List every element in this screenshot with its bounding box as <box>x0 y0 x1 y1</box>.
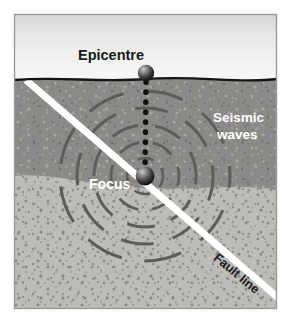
earthquake-diagram: Epicentre Seismic waves Focus Fault line <box>0 0 291 323</box>
focus-sphere <box>136 167 155 186</box>
label-seismic-waves-line2: waves <box>216 127 258 142</box>
lower-layer-speckle <box>14 175 277 309</box>
label-epicentre: Epicentre <box>78 47 144 63</box>
epicentre-sphere <box>138 65 154 81</box>
label-seismic-waves-line1: Seismic <box>213 110 265 125</box>
label-focus: Focus <box>89 176 130 192</box>
diagram-canvas: Epicentre Seismic waves Focus Fault line <box>0 0 291 323</box>
